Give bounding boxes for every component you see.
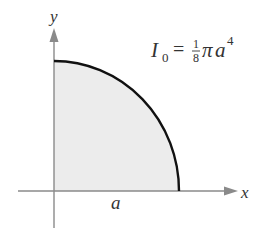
y-axis-label: y bbox=[48, 7, 58, 26]
shaded-region bbox=[54, 61, 179, 191]
formula-exponent: 4 bbox=[227, 33, 234, 48]
formula-var: a bbox=[215, 38, 226, 62]
x-axis-arrow-icon bbox=[224, 187, 238, 196]
radius-label: a bbox=[111, 192, 121, 213]
y-axis-arrow-icon bbox=[50, 28, 59, 42]
quarter-circle-diagram: y x a I 0 = 1 8 π a 4 bbox=[0, 0, 259, 235]
fraction-numerator: 1 bbox=[193, 37, 199, 51]
formula-subscript: 0 bbox=[162, 50, 169, 65]
formula-pi: π bbox=[202, 38, 213, 62]
formula-equals: = bbox=[173, 38, 184, 60]
x-axis-label: x bbox=[240, 183, 249, 202]
moment-of-inertia-formula: I 0 = 1 8 π a 4 bbox=[150, 33, 234, 65]
formula-lhs: I bbox=[150, 38, 159, 62]
fraction-denominator: 8 bbox=[193, 51, 199, 65]
